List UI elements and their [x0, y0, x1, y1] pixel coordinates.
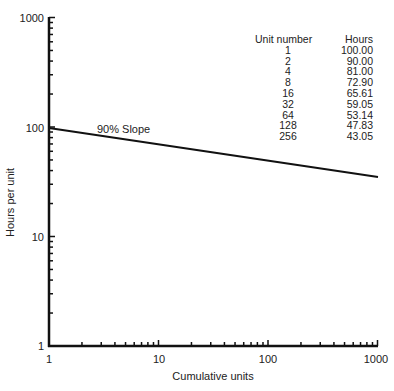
x-tick-label-1: 1	[46, 353, 52, 365]
unit-number: 32	[255, 99, 321, 110]
table-row: 25643.05	[255, 131, 373, 142]
y-tick-label-1000: 1000	[20, 12, 44, 24]
data-table: Unit number Hours 1100.00290.00481.00872…	[255, 34, 373, 142]
y-axis-title: Hours per unit	[4, 168, 16, 237]
table-row: 1100.00	[255, 45, 373, 56]
x-tick-label-1000: 1000	[364, 353, 388, 365]
table-row: 3259.05	[255, 99, 373, 110]
hours-value: 100.00	[321, 45, 373, 56]
x-tick-label-100: 100	[259, 353, 277, 365]
y-tick-label-100: 100	[26, 122, 44, 134]
y-tick-label-1: 1	[38, 340, 44, 352]
y-tick-label-10: 10	[32, 231, 44, 243]
slope-annotation: 90% Slope	[97, 123, 150, 135]
x-axis-title: Cumulative units	[172, 370, 254, 382]
hours-value: 43.05	[321, 131, 373, 142]
unit-number: 1	[255, 45, 321, 56]
x-tick-label-10: 10	[153, 353, 165, 365]
hours-value: 59.05	[321, 99, 373, 110]
unit-number: 256	[255, 131, 321, 142]
